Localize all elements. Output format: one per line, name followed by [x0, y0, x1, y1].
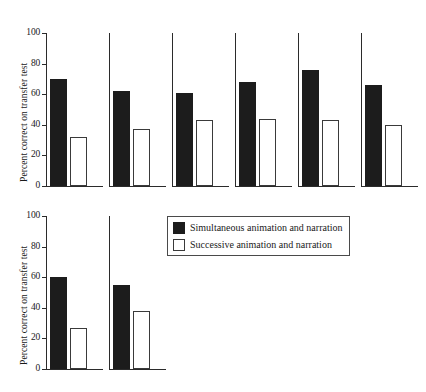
y-tick-label-40: 40	[31, 303, 40, 313]
panel-8-vertical-axis	[109, 216, 110, 369]
panel-6-vertical-axis	[361, 33, 362, 186]
panel-7	[46, 216, 109, 370]
legend-label-2: Successive animation and narration	[190, 239, 332, 251]
y-tick-label-0: 0	[35, 364, 40, 374]
panel-6	[361, 33, 424, 187]
panel-7-bar-successive	[70, 328, 87, 369]
legend-item-1: Simultaneous animation and narration	[173, 220, 345, 236]
panel-5-vertical-axis	[298, 33, 299, 186]
y-tick-label-80: 80	[31, 242, 40, 252]
panel-1-baseline	[46, 186, 103, 187]
panel-6-bar-successive	[385, 125, 402, 186]
y-tick-label-20: 20	[31, 334, 40, 344]
panel-6-baseline	[361, 186, 418, 187]
panel-8-bar-successive	[133, 311, 150, 369]
legend-swatch-hollow	[173, 239, 185, 251]
panel-2	[109, 33, 172, 187]
panel-7-bar-simultaneous	[50, 277, 67, 369]
panel-4-baseline	[235, 186, 292, 187]
panel-5-bar-simultaneous	[302, 70, 319, 186]
panel-4	[235, 33, 298, 187]
panel-2-bar-simultaneous	[113, 91, 130, 186]
panel-5-baseline	[298, 186, 355, 187]
panel-3-bar-simultaneous	[176, 93, 193, 186]
panel-3-vertical-axis	[172, 33, 173, 186]
panel-2-baseline	[109, 186, 166, 187]
panel-8-bar-simultaneous	[113, 285, 130, 369]
y-tick-label-100: 100	[26, 211, 40, 221]
y-axis-caption-row-2: Percent correct on transfer test	[19, 246, 29, 365]
panel-4-bar-simultaneous	[239, 82, 256, 186]
panel-7-baseline	[46, 369, 103, 370]
panel-1-bar-successive	[70, 137, 87, 186]
y-tick-label-100: 100	[26, 28, 40, 38]
legend-label-1: Simultaneous animation and narration	[190, 222, 342, 234]
y-tick-label-60: 60	[31, 272, 40, 282]
legend-swatch-filled	[173, 222, 185, 234]
panel-3	[172, 33, 235, 187]
panel-1-bar-simultaneous	[50, 79, 67, 186]
y-tick-label-80: 80	[31, 59, 40, 69]
panel-4-vertical-axis	[235, 33, 236, 186]
y-tick-label-40: 40	[31, 120, 40, 130]
panel-8	[109, 216, 172, 370]
y-tick-label-20: 20	[31, 151, 40, 161]
panel-4-bar-successive	[259, 119, 276, 186]
y-tick-label-0: 0	[35, 181, 40, 191]
panel-2-bar-successive	[133, 129, 150, 186]
chart-legend: Simultaneous animation and narrationSucc…	[167, 216, 350, 256]
panel-5	[298, 33, 361, 187]
panel-6-bar-simultaneous	[365, 85, 382, 186]
panel-1	[46, 33, 109, 187]
panel-7-vertical-axis	[46, 216, 47, 369]
panel-2-vertical-axis	[109, 33, 110, 186]
panel-1-vertical-axis	[46, 33, 47, 186]
y-tick-label-60: 60	[31, 89, 40, 99]
panel-5-bar-successive	[322, 120, 339, 186]
bar-chart-figure: 100806040200Percent correct on transfer …	[0, 0, 426, 392]
panel-8-baseline	[109, 369, 166, 370]
y-axis-caption-row-1: Percent correct on transfer test	[19, 63, 29, 182]
panel-3-baseline	[172, 186, 229, 187]
legend-item-2: Successive animation and narration	[173, 237, 345, 253]
panel-3-bar-successive	[196, 120, 213, 186]
